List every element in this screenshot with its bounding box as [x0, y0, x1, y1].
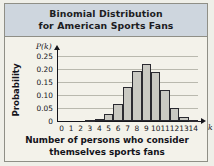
chart-bar: [142, 64, 151, 121]
plot-area: Probability P(k) 00.050.100.150.200.25k0…: [5, 37, 209, 162]
chart-bar: [95, 119, 104, 121]
chart-bar: [189, 120, 198, 122]
chart-bar: [113, 104, 122, 121]
chart-bar: [123, 87, 132, 121]
chart-bar: [151, 72, 160, 121]
chart-title-line-2: for American Sports Fans: [38, 20, 173, 32]
y-axis-tick-label: 0.05: [27, 104, 53, 113]
x-axis-label-line-2: themselves sports fans: [5, 147, 209, 159]
y-axis-tick-label: 0.10: [27, 91, 53, 100]
y-axis-tick-label: 0.15: [27, 79, 53, 88]
figure-panel: Binomial Distribution for American Sport…: [4, 3, 208, 162]
chart-bar: [179, 117, 188, 121]
chart-title-band: Binomial Distribution for American Sport…: [5, 4, 207, 37]
chart-bar: [170, 108, 179, 121]
x-axis-label: Number of persons who considerthemselves…: [5, 135, 209, 158]
x-axis-symbol-label: k: [208, 123, 213, 132]
y-axis-tick-label: 0.20: [27, 66, 53, 75]
x-axis-label-line-1: Number of persons who consider: [5, 135, 209, 147]
chart-bar: [104, 114, 113, 121]
chart-bar: [85, 120, 94, 122]
chart-bar: [132, 71, 141, 121]
chart-title-line-1: Binomial Distribution: [49, 8, 163, 20]
chart-bar: [160, 90, 169, 121]
x-axis-arrow-icon: [201, 118, 206, 124]
y-axis-tick-label: 0: [27, 117, 53, 126]
y-axis-tick-label: 0.25: [27, 53, 53, 62]
